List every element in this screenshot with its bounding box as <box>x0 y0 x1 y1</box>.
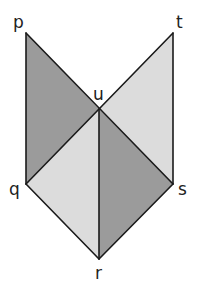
label-u: u <box>93 84 104 104</box>
label-r: r <box>95 263 102 283</box>
label-p: p <box>13 12 24 32</box>
label-t: t <box>176 12 183 32</box>
label-s: s <box>178 179 187 199</box>
label-q: q <box>9 179 20 199</box>
geometry-diagram: p t u q s r <box>0 0 199 287</box>
